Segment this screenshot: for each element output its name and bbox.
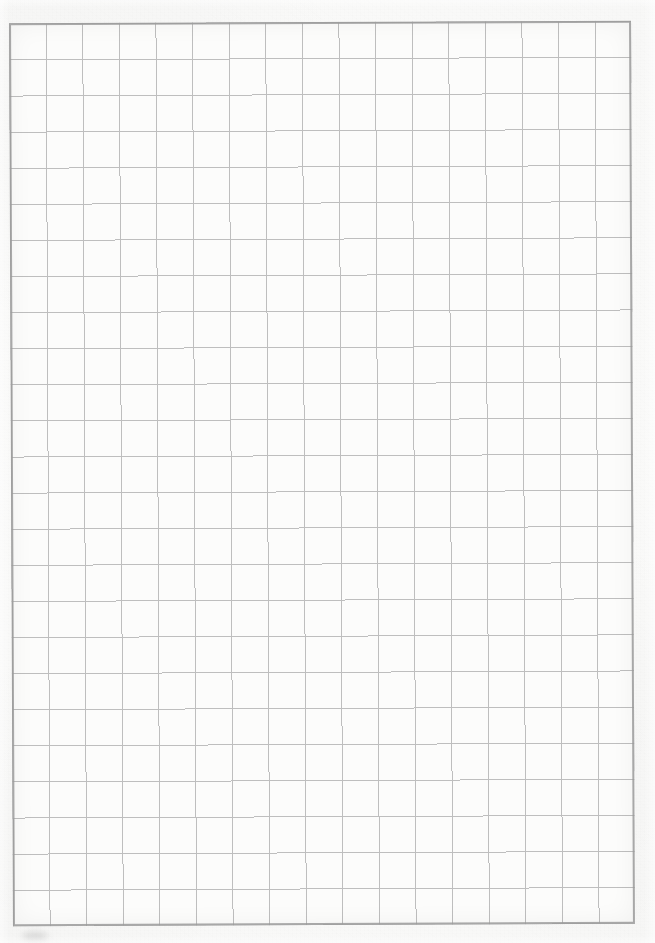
grid-cell-lines (9, 21, 635, 927)
scanned-page (0, 0, 655, 943)
grid-sheet (9, 21, 635, 927)
